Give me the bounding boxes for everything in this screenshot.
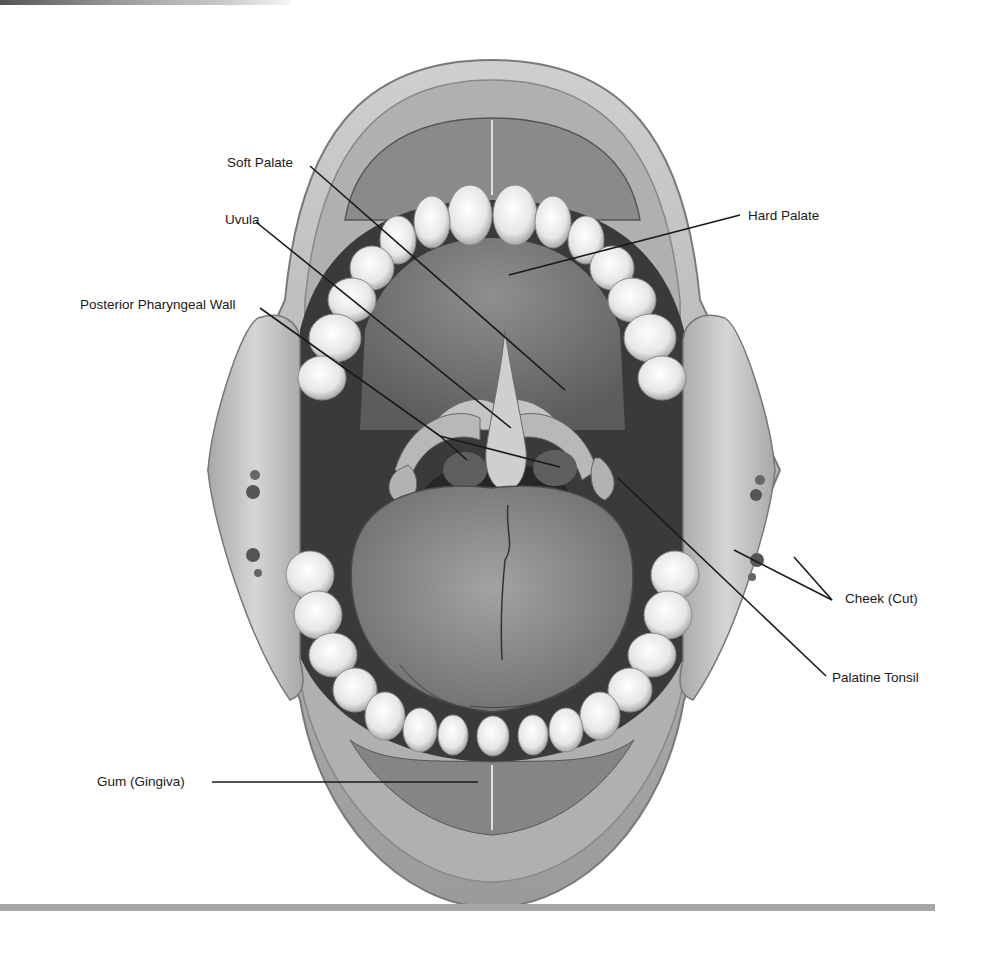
right-cheek-cut [680,315,775,700]
label-uvula: Uvula [225,212,260,228]
label-palatine-tonsil: Palatine Tonsil [832,670,919,686]
label-hard-palate: Hard Palate [748,208,819,224]
label-soft-palate: Soft Palate [227,155,293,171]
oral-cavity-illustration [0,0,983,959]
label-cheek-cut: Cheek (Cut) [845,591,918,607]
label-posterior-pharyngeal-wall: Posterior Pharyngeal Wall [80,297,236,313]
bottom-divider-rule [0,904,935,911]
label-gum-gingiva: Gum (Gingiva) [97,774,185,790]
left-cheek-cut [208,315,303,700]
